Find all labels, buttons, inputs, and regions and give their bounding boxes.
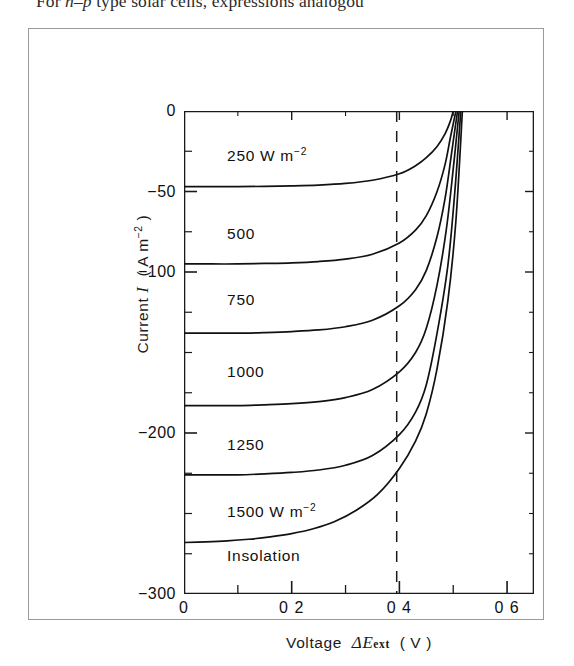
axis-ticks [184,111,534,594]
y-tick-label: −200 [116,424,176,442]
y-axis-units-close: ) [134,215,151,226]
curve-label-text: 1500 W m [227,503,303,520]
x-axis-symbol-subscript: ext [373,638,389,650]
curve-label-text: 250 W m [227,147,294,164]
curve-label-text: Insolation [227,547,300,564]
curve-label-text: 1000 [227,363,264,380]
x-axis-title-prefix: Voltage [286,634,342,651]
curve-label: 250 W m−2 [227,146,307,165]
body-text-italic-p: p [83,0,92,11]
curve-label: 500 [227,225,255,243]
x-tick-label: 0 6 [477,599,537,617]
x-axis-title: Voltage ΔEext ( V ) [184,633,534,653]
figure-frame: 0−50−100−200−300 250 W m−250075010001250… [28,28,544,620]
curve-label: 750 [227,291,255,309]
y-axis-symbol: I [133,286,152,292]
curve-label: 1250 [227,436,264,454]
curve-label: Insolation [227,547,300,565]
body-text-dash: – [74,0,83,11]
curve-label: 1500 W m−2 [227,502,316,521]
body-text-italic-n: n [65,0,74,11]
plot-area: 250 W m−2500750100012501500 W m−2Insolat… [184,111,534,594]
x-axis-symbol-delta: Δ [352,633,363,652]
curve-label-text: 750 [227,291,255,308]
y-axis-title: Current I ( A m−2 ) [133,164,153,404]
body-text-before: For [36,0,65,11]
document-body-text: For n–p type solar cells, expressions an… [36,0,556,13]
x-axis-symbol-e: Eext [362,633,389,652]
y-axis-units-exponent: −2 [133,225,144,238]
body-text-after: type solar cells, expressions analogou [92,0,364,11]
curve-label-exponent: −2 [294,146,307,157]
x-tick-label: 0 [154,599,214,617]
y-axis-units-open: ( A m [134,238,151,276]
curve-label-exponent: −2 [303,502,316,513]
curve-label-text: 1250 [227,436,264,453]
y-axis-title-prefix: Current [134,298,151,354]
axes-frame [185,112,534,594]
x-axis-units: ( V ) [400,634,432,651]
x-axis-tick-labels: 00 20 40 6 [184,599,534,623]
y-tick-label: 0 [116,102,176,120]
x-tick-label: 0 4 [369,599,429,617]
curve-label: 1000 [227,363,264,381]
curve-set [184,111,462,542]
iv-curve-plot [184,111,534,594]
curve-label-text: 500 [227,225,255,242]
x-tick-label: 0 2 [262,599,322,617]
